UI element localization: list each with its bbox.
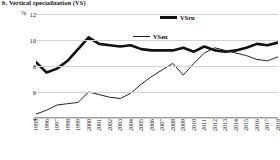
series-line-vsru — [36, 37, 278, 72]
x-tick-2002: 2002 — [107, 119, 113, 131]
figure-caption: b. Vertical specialization (VS) — [2, 0, 86, 6]
x-tick-1996: 1996 — [44, 119, 50, 131]
x-tick-2013: 2013 — [222, 119, 228, 131]
legend-entry-vseu: VSeu — [133, 33, 168, 40]
x-tick-2003: 2003 — [117, 119, 123, 131]
x-tick-2010: 2010 — [191, 119, 197, 131]
x-tick-1999: 1999 — [75, 119, 81, 131]
x-tick-2005: 2005 — [138, 119, 144, 131]
x-tick-2000: 2000 — [86, 119, 92, 131]
x-tick-1997: 1997 — [54, 119, 60, 131]
x-tick-2009: 2009 — [180, 119, 186, 131]
figure-vertical-specialization: b. Vertical specialization (VS) % 121086… — [0, 0, 280, 160]
gridline-6 — [36, 92, 278, 93]
x-tick-2015: 2015 — [243, 119, 249, 131]
x-tick-2012: 2012 — [212, 119, 218, 131]
series-line-vseu — [36, 48, 278, 114]
x-tick-2007: 2007 — [159, 119, 165, 131]
legend-label-vseu: VSeu — [153, 33, 168, 40]
x-tick-2001: 2001 — [96, 119, 102, 131]
legend-label-vsru: VSru — [180, 14, 195, 21]
x-tick-2011: 2011 — [201, 119, 207, 131]
x-axis-tick-labels: 1995199619971998199920002001200220032004… — [36, 119, 278, 159]
gridline-8 — [36, 66, 278, 67]
legend-swatch-vseu — [133, 36, 150, 37]
x-tick-2017: 2017 — [264, 119, 270, 131]
y-axis-tick-labels: 1210864 — [18, 14, 36, 118]
x-tick-2014: 2014 — [233, 119, 239, 131]
x-tick-2006: 2006 — [149, 119, 155, 131]
x-tick-2004: 2004 — [128, 119, 134, 131]
x-tick-1998: 1998 — [65, 119, 71, 131]
x-axis-line — [36, 117, 278, 118]
x-tick-2018: 2018 — [275, 119, 280, 131]
x-tick-2016: 2016 — [254, 119, 260, 131]
legend-entry-vsru: VSru — [160, 14, 195, 21]
x-tick-1995: 1995 — [33, 119, 39, 131]
legend-swatch-vsru — [160, 16, 177, 19]
plot-area — [36, 14, 278, 118]
gridline-10 — [36, 40, 278, 41]
x-tick-2008: 2008 — [170, 119, 176, 131]
gridline-12 — [36, 14, 278, 15]
